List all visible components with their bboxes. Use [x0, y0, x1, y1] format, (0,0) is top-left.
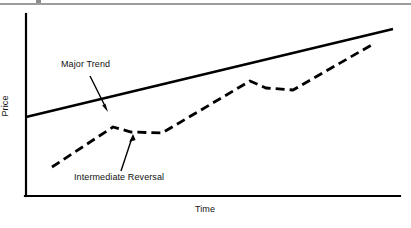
crop-artifact — [36, 0, 41, 3]
chart-canvas — [0, 0, 411, 228]
chart-figure: Price Time Major Trend Intermediate Reve… — [0, 0, 411, 228]
y-axis-label: Price — [0, 86, 10, 126]
major-trend-line — [26, 29, 393, 117]
major-trend-arrow — [90, 76, 108, 112]
intermediate-reversal-arrow — [121, 134, 136, 171]
major-trend-annotation-label: Major Trend — [61, 59, 110, 69]
intermediate-reversal-annotation-label: Intermediate Reversal — [74, 172, 164, 182]
x-axis-label: Time — [175, 204, 235, 214]
